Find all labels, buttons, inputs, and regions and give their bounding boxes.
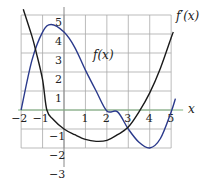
chart: −2−11234554321−1−2−3 f(x) f′(x) x <box>0 0 209 188</box>
x-tick-label: −2 <box>11 112 27 125</box>
x-axis-label: x <box>188 102 195 116</box>
x-tick-label: 4 <box>146 112 153 125</box>
y-tick-label: 2 <box>55 73 62 86</box>
x-tick-label: 2 <box>103 112 110 125</box>
y-tick-label: 1 <box>55 92 62 105</box>
y-tick-label: −3 <box>49 168 65 181</box>
label-f-prime: f′(x) <box>175 9 200 23</box>
x-tick-label: 1 <box>81 112 88 125</box>
y-tick-label: 3 <box>55 54 62 67</box>
x-tick-label: −1 <box>33 112 49 125</box>
y-tick-label: −2 <box>49 149 65 162</box>
label-f: f(x) <box>92 48 114 62</box>
y-tick-label: 4 <box>55 35 62 48</box>
y-tick-label: −1 <box>49 130 65 143</box>
